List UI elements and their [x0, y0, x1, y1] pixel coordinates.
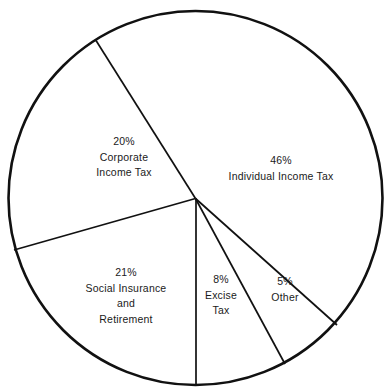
slice-label-social-insurance-retirement: 21% Social Insurance and Retirement	[86, 265, 167, 327]
slice-percent-other: 5%	[271, 274, 298, 290]
slice-name-corporate-line1: Corporate	[96, 149, 152, 165]
slice-label-individual-income-tax: 46% Individual Income Tax	[229, 153, 334, 184]
slice-label-excise-tax: 8% Excise Tax	[205, 272, 237, 319]
slice-label-corporate-income-tax: 20% Corporate Income Tax	[96, 134, 152, 181]
slice-percent-corporate: 20%	[96, 134, 152, 150]
slice-name-corporate-line2: Income Tax	[96, 165, 152, 181]
pie-chart-figure: 20% Corporate Income Tax 46% Individual …	[0, 0, 388, 392]
slice-percent-excise: 8%	[205, 272, 237, 288]
slice-name-social-line2: and	[86, 296, 167, 312]
slice-percent-individual: 46%	[229, 153, 334, 169]
slice-name-excise-line1: Excise	[205, 287, 237, 303]
slice-name-social-line3: Retirement	[86, 312, 167, 328]
slice-name-other: Other	[271, 289, 298, 305]
slice-name-excise-line2: Tax	[205, 303, 237, 319]
slice-name-social-line1: Social Insurance	[86, 281, 167, 297]
slice-name-individual: Individual Income Tax	[229, 168, 334, 184]
slice-label-other: 5% Other	[271, 274, 298, 305]
pie-chart-svg	[0, 0, 388, 392]
slice-percent-social: 21%	[86, 265, 167, 281]
